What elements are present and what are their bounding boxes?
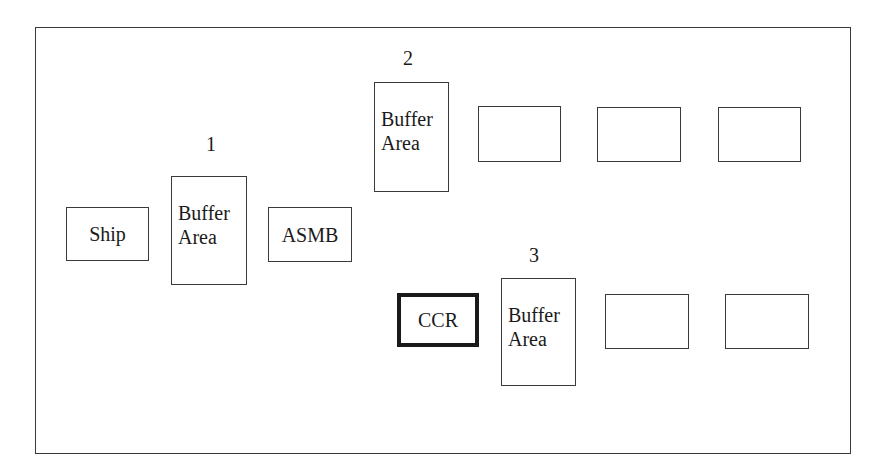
ship-label: Ship xyxy=(89,222,126,246)
row2-station-3 xyxy=(718,107,801,162)
ccr-box: CCR xyxy=(397,293,479,347)
buffer-area-1-line2: Area xyxy=(178,225,230,249)
row3-station-2 xyxy=(725,294,809,349)
row2-station-1 xyxy=(478,106,561,162)
asmb-label: ASMB xyxy=(282,223,339,247)
asmb-box: ASMB xyxy=(268,207,352,262)
zone-2-label: 2 xyxy=(403,48,413,68)
buffer-area-2: Buffer Area xyxy=(374,82,449,192)
ship-box: Ship xyxy=(66,207,149,261)
buffer-area-1: Buffer Area xyxy=(171,176,247,285)
buffer-area-1-line1: Buffer xyxy=(178,201,230,225)
zone-3-label: 3 xyxy=(529,245,539,265)
buffer-area-2-line1: Buffer xyxy=(381,107,433,131)
zone-1-label: 1 xyxy=(206,134,216,154)
row3-station-1 xyxy=(605,294,689,349)
buffer-area-3-line2: Area xyxy=(508,327,560,351)
ccr-label: CCR xyxy=(418,308,458,332)
row2-station-2 xyxy=(597,107,681,162)
buffer-area-2-line2: Area xyxy=(381,131,433,155)
buffer-area-3: Buffer Area xyxy=(501,278,576,386)
buffer-area-3-line1: Buffer xyxy=(508,303,560,327)
